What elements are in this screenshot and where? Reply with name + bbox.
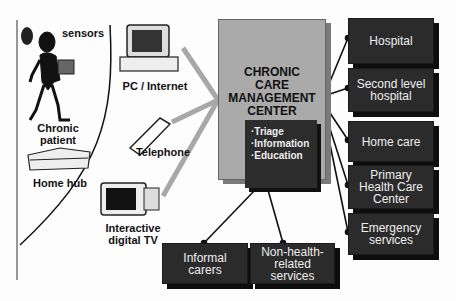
pc-internet-label: PC / Internet (115, 80, 195, 92)
service-emergency: Emergencyservices (348, 213, 434, 255)
pc-icon (120, 25, 178, 71)
sensors-label: sensors (62, 27, 104, 39)
center-title: CHRONIC CARE MANAGEMENT CENTER (219, 66, 325, 118)
service-home-care: Home care (348, 121, 434, 162)
service-non-health-related: Non-health-relatedservices (250, 243, 335, 284)
patient-icon (30, 32, 74, 120)
telephone-label: Telephone (128, 146, 198, 158)
home-hub-icon (28, 148, 90, 170)
chronic-care-diagram: sensors Chronic patient Home hub PC / In… (0, 0, 456, 301)
home-hub-label: Home hub (20, 177, 100, 189)
service-second-level-hospital: Second levelhospital (348, 68, 434, 112)
center-functions-box: ·Triage ·Information ·Education (245, 120, 317, 188)
tv-label: Interactive digital TV (98, 222, 168, 246)
sensor-icon (21, 27, 33, 45)
tv-icon (101, 183, 159, 215)
service-informal-carers: Informalcarers (162, 243, 248, 284)
service-hospital: Hospital (348, 18, 434, 64)
patient-label: Chronic patient (18, 122, 98, 146)
service-primary-health-care: PrimaryHealth CareCenter (348, 165, 434, 209)
